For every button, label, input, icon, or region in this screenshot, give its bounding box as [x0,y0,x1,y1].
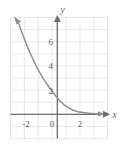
y-axis [54,15,61,139]
plot-canvas: -2 0 2 2 4 6 y x [0,0,121,147]
x-axis-arrowhead-icon [103,111,110,118]
x-tick-labels: -2 0 2 [22,119,82,129]
exponential-decay-curve [19,23,100,114]
y-tick-label-6: 6 [49,37,54,47]
x-axis-name-label: x [112,110,118,120]
y-axis-arrowhead-icon [54,15,61,22]
y-axis-name-label: y [60,5,66,15]
y-tick-labels: 2 4 6 [49,37,54,95]
y-tick-label-4: 4 [49,61,54,71]
y-tick-label-2: 2 [49,86,54,96]
x-tick-label-2: 2 [78,119,83,129]
x-tick-label-0: 0 [50,119,55,129]
x-tick-label--2: -2 [22,119,30,129]
exponential-decay-graph-figure: -2 0 2 2 4 6 y x [0,0,121,147]
curve-series [14,17,105,117]
